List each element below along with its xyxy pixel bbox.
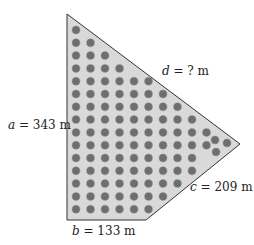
tree-icon <box>174 103 182 111</box>
tree-icon <box>188 167 196 175</box>
tree-icon <box>130 180 138 188</box>
tree-icon <box>211 136 219 144</box>
tree-icon <box>72 90 80 98</box>
tree-icon <box>130 205 138 213</box>
tree-icon <box>174 167 182 175</box>
side-b-label: b = 133 m <box>72 224 135 238</box>
tree-icon <box>116 128 124 136</box>
tree-icon <box>130 90 138 98</box>
tree-icon <box>87 180 95 188</box>
tree-icon <box>159 128 167 136</box>
tree-icon <box>101 167 109 175</box>
tree-icon <box>159 90 167 98</box>
tree-icon <box>101 128 109 136</box>
tree-icon <box>159 141 167 149</box>
tree-icon <box>116 192 124 200</box>
tree-icon <box>203 128 211 136</box>
side-c-label: c = 209 m <box>190 180 253 194</box>
tree-icon <box>72 141 80 149</box>
tree-icon <box>72 180 80 188</box>
tree-icon <box>116 167 124 175</box>
tree-icon <box>101 77 109 85</box>
tree-icon <box>145 192 153 200</box>
tree-icon <box>87 64 95 72</box>
tree-icon <box>130 141 138 149</box>
tree-icon <box>101 103 109 111</box>
tree-icon <box>101 52 109 60</box>
tree-icon <box>174 116 182 124</box>
tree-icon <box>101 180 109 188</box>
tree-icon <box>87 154 95 162</box>
tree-icon <box>116 90 124 98</box>
tree-icon <box>72 26 80 34</box>
tree-icon <box>116 141 124 149</box>
tree-icon <box>174 180 182 188</box>
tree-icon <box>72 128 80 136</box>
tree-icon <box>72 77 80 85</box>
tree-icon <box>101 154 109 162</box>
tree-icon <box>159 116 167 124</box>
tree-icon <box>72 205 80 213</box>
tree-icon <box>130 103 138 111</box>
tree-icon <box>130 192 138 200</box>
tree-icon <box>116 154 124 162</box>
tree-icon <box>145 167 153 175</box>
tree-icon <box>116 205 124 213</box>
tree-icon <box>159 167 167 175</box>
tree-icon <box>116 103 124 111</box>
tree-icon <box>87 103 95 111</box>
tree-icon <box>72 116 80 124</box>
tree-icon <box>87 90 95 98</box>
tree-icon <box>101 64 109 72</box>
tree-icon <box>159 154 167 162</box>
tree-icon <box>72 39 80 47</box>
tree-icon <box>72 103 80 111</box>
tree-icon <box>130 167 138 175</box>
tree-icon <box>188 141 196 149</box>
tree-icon <box>116 116 124 124</box>
tree-icon <box>87 39 95 47</box>
tree-icon <box>145 77 153 85</box>
tree-icon <box>87 141 95 149</box>
tree-icon <box>145 141 153 149</box>
tree-icon <box>159 192 167 200</box>
tree-icon <box>174 141 182 149</box>
side-a-label: a = 343 m <box>8 118 71 132</box>
tree-icon <box>145 90 153 98</box>
tree-icon <box>145 128 153 136</box>
tree-icon <box>174 128 182 136</box>
tree-icon <box>130 77 138 85</box>
tree-icon <box>87 116 95 124</box>
tree-icon <box>130 128 138 136</box>
tree-icon <box>87 52 95 60</box>
tree-icon <box>101 192 109 200</box>
tree-icon <box>87 205 95 213</box>
tree-icon <box>130 154 138 162</box>
tree-icon <box>87 77 95 85</box>
tree-icon <box>101 90 109 98</box>
tree-icon <box>72 52 80 60</box>
tree-icon <box>116 77 124 85</box>
tree-icon <box>145 154 153 162</box>
tree-icon <box>101 141 109 149</box>
tree-icon <box>188 116 196 124</box>
tree-icon <box>72 64 80 72</box>
tree-icon <box>145 180 153 188</box>
tree-icon <box>130 116 138 124</box>
tree-icon <box>101 116 109 124</box>
tree-icon <box>72 167 80 175</box>
tree-icon <box>174 154 182 162</box>
tree-icon <box>116 64 124 72</box>
tree-icon <box>223 139 231 147</box>
tree-icon <box>116 180 124 188</box>
tree-icon <box>188 128 196 136</box>
tree-icon <box>159 180 167 188</box>
tree-icon <box>87 128 95 136</box>
tree-icon <box>159 103 167 111</box>
tree-icon <box>145 205 153 213</box>
tree-icon <box>145 116 153 124</box>
tree-icon <box>87 192 95 200</box>
tree-icon <box>203 141 211 149</box>
tree-icon <box>72 192 80 200</box>
tree-icon <box>72 154 80 162</box>
